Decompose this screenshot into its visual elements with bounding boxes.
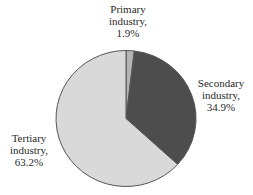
label-primary-name: Primary (106, 3, 150, 15)
label-secondary-industry: Secondary industry, 34.9% (188, 77, 253, 113)
label-primary-suffix: industry, (106, 15, 150, 27)
label-secondary-suffix: industry, (188, 89, 253, 101)
label-primary-value: 1.9% (106, 27, 150, 39)
label-tertiary-name: Tertiary (1, 132, 57, 144)
label-secondary-name: Secondary (188, 77, 253, 89)
label-tertiary-value: 63.2% (1, 156, 57, 168)
label-tertiary-suffix: industry, (1, 144, 57, 156)
pie-chart: Primary industry, 1.9% Secondary industr… (0, 0, 253, 195)
label-primary-industry: Primary industry, 1.9% (106, 3, 150, 39)
label-secondary-value: 34.9% (188, 101, 253, 113)
label-tertiary-industry: Tertiary industry, 63.2% (1, 132, 57, 168)
